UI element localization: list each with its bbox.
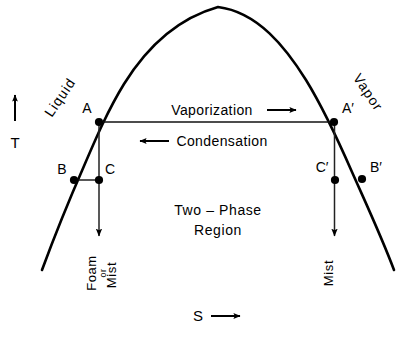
phase-label-vapor: Vapor: [350, 71, 386, 114]
drop-label-left-mist: Mist: [104, 262, 119, 288]
point-bprime-marker: [358, 175, 366, 183]
drop-label-left-foam: Foam: [84, 255, 99, 291]
point-label-bprime: B′: [370, 159, 382, 175]
region-label-line2: Region: [194, 222, 242, 238]
t-axis-label: T: [10, 134, 19, 151]
point-aprime-marker: [330, 118, 338, 126]
point-b-marker: [70, 176, 78, 184]
point-a-marker: [95, 118, 103, 126]
ts-diagram-canvas: A B C A′ B′ C′ Liquid Vapor Two – Phase …: [0, 0, 401, 337]
ts-diagram-figure: A B C A′ B′ C′ Liquid Vapor Two – Phase …: [0, 0, 401, 337]
point-cprime-marker: [331, 176, 339, 184]
region-label-line1: Two – Phase: [174, 202, 262, 218]
point-label-b: B: [57, 161, 66, 177]
s-axis-label: S: [193, 307, 203, 324]
process-label-vaporization: Vaporization: [171, 102, 253, 118]
point-label-a: A: [82, 100, 92, 116]
point-label-cprime: C′: [316, 159, 329, 175]
point-label-aprime: A′: [342, 100, 354, 116]
phase-label-liquid: Liquid: [41, 75, 79, 120]
point-label-c: C: [105, 161, 115, 177]
process-label-condensation: Condensation: [176, 133, 267, 149]
drop-label-right-mist: Mist: [321, 260, 336, 286]
point-c-marker: [95, 176, 103, 184]
